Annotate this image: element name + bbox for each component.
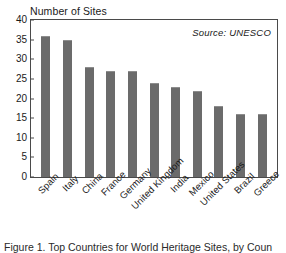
y-axis-tick-label: 25 xyxy=(16,74,27,84)
bar-slot xyxy=(165,20,187,177)
y-axis-tick-label: 40 xyxy=(16,15,27,25)
chart-title: Number of Sites xyxy=(30,5,107,17)
bar-slot xyxy=(57,20,79,177)
x-label-slot: United Kingdom xyxy=(143,178,165,248)
bar-slot xyxy=(251,20,273,177)
x-label-slot: France xyxy=(99,178,121,248)
x-label-slot: Spain xyxy=(34,178,56,248)
y-axis-tick-label: 5 xyxy=(21,152,27,162)
bar xyxy=(150,83,159,177)
x-label-slot: United States xyxy=(209,178,231,248)
bar-slot xyxy=(143,20,165,177)
bar xyxy=(258,114,267,177)
bar xyxy=(63,40,72,177)
bar xyxy=(193,91,202,177)
bar-slot xyxy=(100,20,122,177)
bar-slot xyxy=(35,20,57,177)
bar xyxy=(85,67,94,177)
y-axis-tick-label: 30 xyxy=(16,54,27,64)
bar-slot xyxy=(186,20,208,177)
y-axis-tick-label: 35 xyxy=(16,35,27,45)
plot-area: Source: UNESCO 0510152025303540 xyxy=(30,19,278,178)
bar-slot xyxy=(122,20,144,177)
x-label-slot: Mexico xyxy=(187,178,209,248)
figure-caption: Figure 1. Top Countries for World Herita… xyxy=(4,241,282,253)
x-label-slot: Greece xyxy=(252,178,274,248)
y-axis-tick-label: 0 xyxy=(21,172,27,182)
bar-slot xyxy=(78,20,100,177)
y-axis-tick-label: 10 xyxy=(16,133,27,143)
bar-slot xyxy=(208,20,230,177)
x-label-slot: Germany xyxy=(121,178,143,248)
bar xyxy=(106,71,115,177)
bar xyxy=(214,106,223,177)
x-label-slot: India xyxy=(165,178,187,248)
x-label-slot: Brazil xyxy=(230,178,252,248)
x-label-slot: Italy xyxy=(56,178,78,248)
bar xyxy=(41,36,50,177)
bars-container xyxy=(31,20,277,177)
y-axis-tick-label: 15 xyxy=(16,113,27,123)
bar xyxy=(128,71,137,177)
bar-slot xyxy=(230,20,252,177)
y-axis-tick-label: 20 xyxy=(16,94,27,104)
x-label-slot: China xyxy=(78,178,100,248)
x-axis-labels: SpainItalyChinaFranceGermanyUnited Kingd… xyxy=(30,178,278,248)
